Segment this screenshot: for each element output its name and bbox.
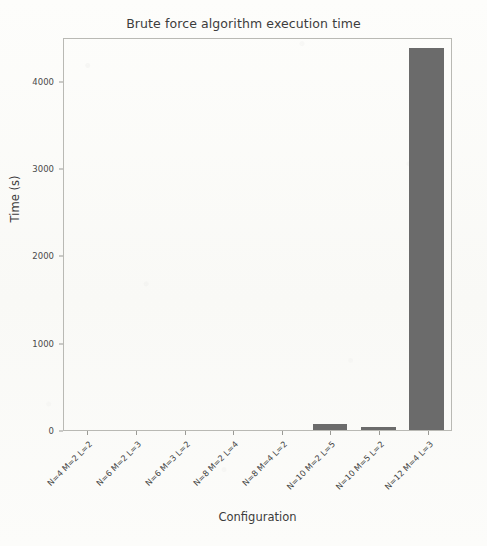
y-tick-label: 3000: [32, 164, 54, 174]
x-tick-mark: [136, 431, 137, 435]
bar-slot: [258, 39, 306, 430]
x-tick-mark: [282, 431, 283, 435]
y-axis-ticks: 01000200030004000: [0, 0, 63, 546]
y-tick-label: 0: [49, 426, 54, 436]
bar: [409, 48, 444, 430]
plot-area: [63, 38, 452, 431]
bar-slot: [209, 39, 257, 430]
y-tick-label: 2000: [32, 251, 54, 261]
bar-slot: [403, 39, 451, 430]
x-axis-tick-labels: N=4 M=2 L=2N=6 M=2 L=3N=6 M=3 L=2N=8 M=2…: [63, 437, 452, 507]
bar-slot: [354, 39, 402, 430]
x-tick-mark: [379, 431, 380, 435]
bar: [313, 424, 348, 430]
y-tick-label: 1000: [32, 339, 54, 349]
x-tick-mark: [233, 431, 234, 435]
y-tick-label: 4000: [32, 77, 54, 87]
chart-title: Brute force algorithm execution time: [0, 16, 487, 31]
x-tick-mark: [428, 431, 429, 435]
x-axis-label: Configuration: [63, 510, 452, 524]
bar: [361, 427, 396, 430]
bar-slot: [161, 39, 209, 430]
chart-figure: Brute force algorithm execution time Tim…: [0, 0, 487, 546]
x-tick-mark: [87, 431, 88, 435]
bar-slot: [306, 39, 354, 430]
bar-slot: [64, 39, 112, 430]
x-tick-mark: [330, 431, 331, 435]
x-tick-label-slot: N=12 M=4 L=3: [403, 437, 452, 507]
x-tick-mark: [185, 431, 186, 435]
bar-series: [64, 39, 451, 430]
bar-slot: [112, 39, 160, 430]
